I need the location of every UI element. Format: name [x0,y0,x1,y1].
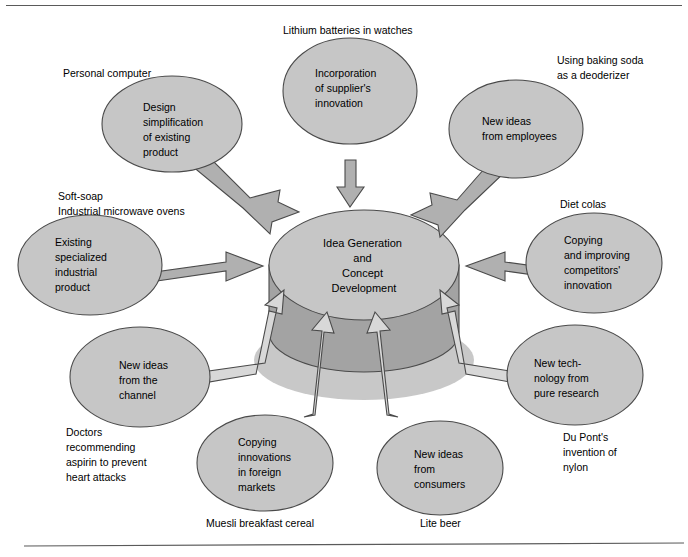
node-copying-competitors[interactable]: Copying and improving competitors' innov… [526,213,662,313]
node-ideas-from-channel[interactable]: New ideas from the channel [70,327,210,427]
node-ellipse [526,213,662,313]
node-new-technology-pure-research[interactable]: New tech- nology from pure research [507,325,643,425]
node-ellipse [197,415,333,511]
caption-new-technology-pure-research: Du Pont's invention of nylon [563,431,620,473]
caption-existing-industrial-product: Soft-soap Industrial microwave ovens [58,190,185,217]
node-design-simplification[interactable]: Design simplification of existing produc… [102,76,242,172]
node-ideas-from-consumers[interactable]: New ideas from consumers [377,421,503,515]
node-existing-industrial-product[interactable]: Existing specialized industrial product [18,215,162,315]
caption-ideas-from-employees: Using baking soda as a deoderizer [557,54,646,81]
cylinder-top [269,210,459,320]
caption-ideas-from-channel: Doctors recommending aspirin to prevent … [66,426,149,483]
node-ellipse [449,80,583,178]
bottom-rule [24,543,684,546]
caption-copying-foreign-markets: Muesli breakfast cereal [206,517,314,529]
caption-ideas-from-consumers: Lite beer [420,517,461,529]
caption-copying-competitors: Diet colas [560,198,606,210]
arrow-existing-industrial-product [155,252,263,283]
node-supplier-innovation[interactable]: Incorporation of supplier's innovation [283,38,417,144]
node-ideas-from-employees[interactable]: New ideas from employees [449,80,583,178]
caption-supplier-innovation: Lithium batteries in watches [283,24,413,36]
arrow-supplier-innovation [337,160,364,207]
caption-design-simplification: Personal computer [63,67,152,79]
idea-sources-diagram: Idea Generation and Concept Development … [0,0,688,557]
node-ellipse [18,215,162,315]
node-ellipse [377,421,503,515]
node-copying-foreign-markets[interactable]: Copying innovations in foreign markets [197,415,333,511]
